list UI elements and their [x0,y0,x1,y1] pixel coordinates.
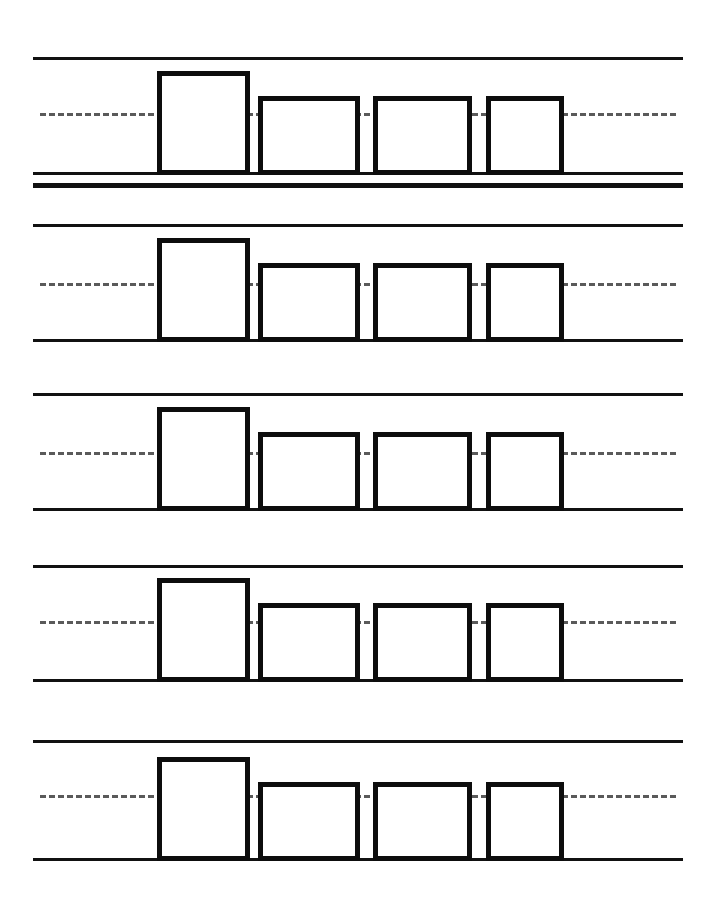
top-guide-line [33,740,683,743]
practice-square-3-row-5[interactable] [373,782,472,861]
practice-square-4-row-5[interactable] [486,782,564,861]
practice-square-1-row-5[interactable] [157,757,250,861]
practice-row-5 [0,0,720,906]
practice-square-2-row-5[interactable] [258,782,360,861]
worksheet-page [0,0,720,906]
